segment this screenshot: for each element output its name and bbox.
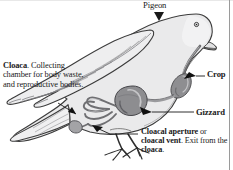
label-gizzard: Gizzard <box>196 108 225 118</box>
label-aperture-description: . Exit from the <box>181 136 227 145</box>
label-cloaca-reference: cloaca <box>141 145 162 154</box>
label-pigeon: Pigeon <box>143 1 166 11</box>
cloaca-chamber <box>69 121 82 133</box>
label-cloaca-term: Cloaca <box>3 61 27 70</box>
leg-left <box>116 134 122 149</box>
label-crop: Crop <box>207 70 226 80</box>
label-vent-term: cloacal vent <box>141 136 181 145</box>
label-aperture-term: Cloacal aperture <box>141 127 198 136</box>
leg-right <box>128 134 137 148</box>
pigeon-anatomy-figure: Pigeon Crop Gizzard Cloaca. Collecting c… <box>0 0 233 170</box>
label-aperture-conjunction: or <box>198 127 207 136</box>
label-cloacal-aperture: Cloacal aperture or cloacal vent. Exit f… <box>141 127 231 155</box>
label-cloaca: Cloaca. Collecting chamber for body wast… <box>3 61 95 89</box>
eye-pupil <box>196 24 198 26</box>
label-aperture-period: . <box>162 145 164 154</box>
